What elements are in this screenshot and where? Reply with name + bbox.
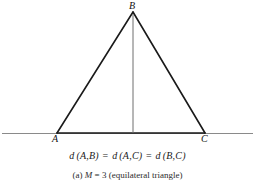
vertex-label-c: C [201, 134, 208, 144]
vertex-label-a: A [52, 134, 58, 144]
equation-pair-2: (A,C) [119, 150, 142, 161]
figure-caption: (a) M = 3 (equilateral triangle) [0, 170, 255, 180]
triangle-side-ab [57, 12, 133, 133]
caption-equals: = [95, 170, 100, 180]
equation-pair-1: (A,B) [77, 150, 99, 161]
equation-function-3: d [156, 150, 163, 161]
caption-index: (a) [73, 170, 83, 180]
vertex-label-b: B [129, 1, 135, 11]
triangle-side-bc [133, 12, 205, 133]
distance-equation: d(A,B) = d(A,C) = d(B,C) [0, 150, 255, 161]
equation-pair-3: (B,C) [163, 150, 186, 161]
equation-equals-1: = [102, 150, 110, 161]
figure-equilateral-triangle: B A C d(A,B) = d(A,C) = d(B,C) (a) M = 3… [0, 0, 255, 180]
equation-function-1: d [69, 150, 76, 161]
triangle-diagram [0, 0, 255, 146]
equation-equals-2: = [145, 150, 153, 161]
caption-symbol: M [85, 170, 93, 180]
caption-value: 3 [102, 170, 107, 180]
caption-description: (equilateral triangle) [109, 170, 183, 180]
